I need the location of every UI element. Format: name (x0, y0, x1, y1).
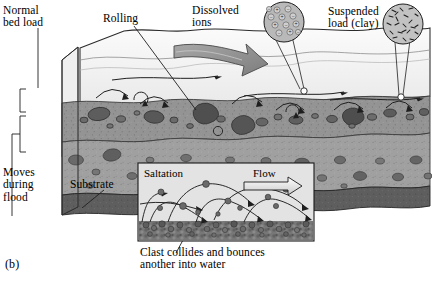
label-moves-during-flood: Moves during flood (3, 166, 35, 203)
svg-text:+: + (273, 22, 276, 28)
svg-text:−: − (269, 14, 272, 20)
label-substrate: Substrate (70, 178, 114, 190)
label-saltation: Saltation (144, 167, 183, 179)
svg-text:−: − (277, 30, 280, 36)
label-normal-bed-load: Normal bed load (3, 4, 43, 29)
figure-canvas: +− −+ − +− + −+ −− (0, 0, 432, 282)
svg-text:−: − (284, 22, 287, 28)
label-rolling: Rolling (103, 12, 138, 24)
svg-text:−: − (296, 29, 299, 35)
label-flow: Flow (253, 167, 276, 179)
block-diagram-illustration: +− −+ − +− + −+ −− (0, 0, 432, 282)
figure-label: (b) (5, 258, 19, 270)
label-dissolved-ions: Dissolved ions (192, 4, 239, 29)
svg-text:+: + (280, 14, 283, 20)
svg-text:−: − (291, 13, 294, 19)
label-suspended-load: Suspended load (clay) (328, 5, 379, 30)
svg-text:+: + (294, 21, 297, 27)
svg-text:−: − (286, 6, 289, 12)
caption-clast-collides: Clast collides and bounces another into … (140, 246, 265, 271)
svg-text:+: + (275, 7, 278, 13)
svg-text:−: − (267, 6, 270, 12)
svg-text:+: + (288, 29, 291, 35)
